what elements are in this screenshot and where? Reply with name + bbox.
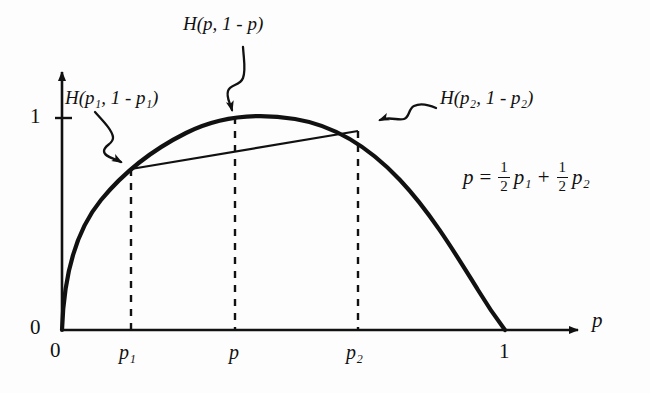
equation-lhs: p xyxy=(463,165,474,190)
leader-arrow-top xyxy=(227,47,244,110)
fraction-denominator: 2 xyxy=(557,177,569,195)
x-tick-label-one: 1 xyxy=(499,341,510,362)
fraction-numerator: 1 xyxy=(557,160,569,177)
entropy-curve xyxy=(62,116,505,330)
chord-line xyxy=(131,131,358,169)
leader-arrow-right xyxy=(380,104,436,120)
fraction-denominator: 2 xyxy=(498,177,510,195)
callout-label-top: H(p, 1 - p) xyxy=(183,14,263,33)
x-tick-label-p1: p₁ xyxy=(119,342,136,362)
equation-plus: + xyxy=(538,165,550,190)
y-axis-tick-label-one: 1 xyxy=(30,106,41,127)
x-tick-label-p: p xyxy=(229,342,239,362)
leader-arrow-left xyxy=(95,112,121,162)
equation-convex-combination: p = 1 2 p₁ + 1 2 p₂ xyxy=(463,160,590,195)
fraction-one-half-first: 1 2 xyxy=(498,160,510,195)
fraction-numerator: 1 xyxy=(498,160,510,177)
x-axis-name: p xyxy=(592,310,603,331)
x-axis-origin-label: 0 xyxy=(50,340,61,361)
callout-label-left: H(p₁, 1 - p₁) xyxy=(65,88,158,107)
equation-term2-variable: p₂ xyxy=(572,165,590,190)
fraction-one-half-second: 1 2 xyxy=(557,160,569,195)
figure-canvas xyxy=(0,0,650,393)
equation-term1-variable: p₁ xyxy=(514,165,532,190)
callout-label-right: H(p₂, 1 - p₂) xyxy=(440,88,533,107)
x-tick-label-p2: p₂ xyxy=(346,342,363,362)
entropy-concavity-figure: H(p, 1 - p) H(p₁, 1 - p₁) H(p₂, 1 - p₂) … xyxy=(0,0,650,393)
y-axis-origin-label: 0 xyxy=(30,317,41,338)
equation-equals: = xyxy=(480,165,492,190)
